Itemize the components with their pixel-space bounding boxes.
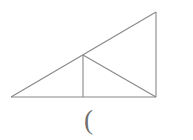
inner-diagonal-line bbox=[83, 55, 156, 97]
triangle-lines-group bbox=[11, 12, 156, 97]
geometry-figure: ( bbox=[0, 0, 193, 140]
caption-label: ( bbox=[0, 105, 193, 135]
